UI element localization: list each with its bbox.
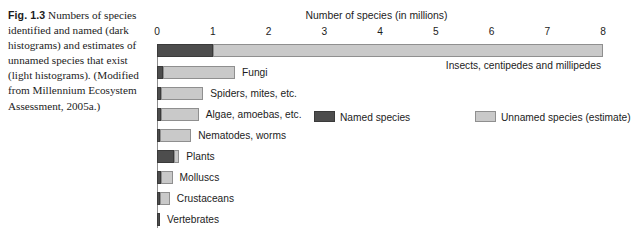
bar-label: Vertebrates: [167, 213, 219, 226]
x-tick-label: 8: [600, 26, 606, 37]
bar-segment-unnamed: [163, 66, 235, 79]
bars-area: Insects, centipedes and millipedesFungiS…: [157, 44, 603, 228]
x-tick-label: 2: [266, 26, 272, 37]
bar-row: Insects, centipedes and millipedes: [157, 44, 603, 57]
bar-segment-named: [157, 150, 174, 163]
bar-segment-unnamed: [161, 171, 172, 184]
bar-segment-unnamed: [160, 192, 169, 205]
x-tick-label: 7: [544, 26, 550, 37]
x-tick-label: 3: [321, 26, 327, 37]
bar-label: Algae, amoebas, etc.: [206, 108, 302, 121]
bar-segment-unnamed: [174, 150, 180, 163]
bar-label: Crustaceans: [177, 192, 234, 205]
figure-number: Fig. 1.3: [8, 9, 45, 21]
bar-segment-unnamed: [161, 108, 199, 121]
bar-segment-unnamed: [160, 129, 191, 142]
legend-label: Unnamed species (estimate): [501, 112, 631, 123]
bar-label: Fungi: [242, 66, 267, 79]
legend-item: Unnamed species (estimate): [475, 107, 631, 120]
bar-segment-named: [157, 44, 213, 57]
bar-row: Plants: [157, 150, 603, 163]
x-tick-label: 6: [489, 26, 495, 37]
bar-row: Crustaceans: [157, 192, 603, 205]
x-tick-label: 0: [154, 26, 160, 37]
legend-swatch-named: [314, 111, 335, 122]
bar-row: Fungi: [157, 66, 603, 79]
bar-row: Spiders, mites, etc.: [157, 87, 603, 100]
x-tick-label: 5: [433, 26, 439, 37]
figure-caption: Fig. 1.3 Numbers of species identified a…: [8, 8, 144, 114]
bar-segment-named: [157, 213, 160, 226]
bar-segment-unnamed: [161, 87, 203, 100]
figure-caption-text: Numbers of species identified and named …: [8, 9, 139, 112]
bar-row: Molluscs: [157, 171, 603, 184]
bar-label: Plants: [186, 150, 214, 163]
bar-row: Vertebrates: [157, 213, 603, 226]
x-axis-title: Number of species (in millions): [150, 10, 603, 21]
x-tick-label: 4: [377, 26, 383, 37]
legend-label: Named species: [340, 112, 410, 123]
bar-row: Nematodes, worms: [157, 129, 603, 142]
bar-label: Nematodes, worms: [198, 129, 286, 142]
legend-item: Named species: [314, 107, 410, 120]
chart-panel: Number of species (in millions) 01234567…: [150, 0, 613, 241]
bar-label: Spiders, mites, etc.: [210, 87, 297, 100]
bar-label: Molluscs: [180, 171, 220, 184]
x-tick-label: 1: [210, 26, 216, 37]
legend-swatch-unnamed: [475, 111, 496, 122]
bar-segment-unnamed: [213, 44, 603, 57]
